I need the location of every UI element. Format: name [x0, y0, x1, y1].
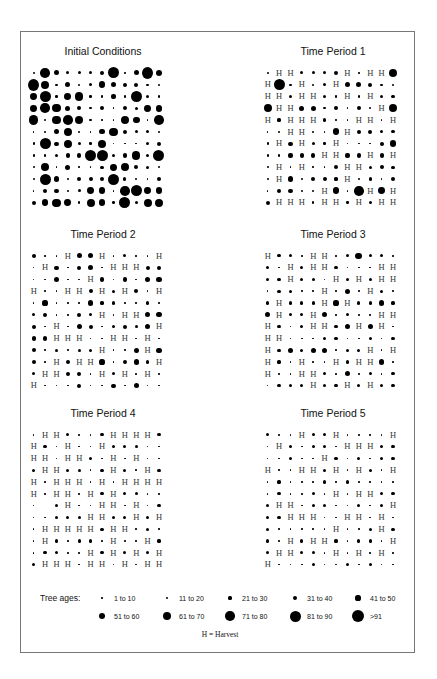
harvest-cell: H [285, 547, 296, 559]
harvest-icon: H [299, 92, 305, 101]
tree-dot-icon [156, 277, 161, 282]
tree-dot-icon [347, 190, 349, 192]
harvest-icon: H [76, 454, 82, 463]
tree-dot-icon [369, 278, 372, 281]
tree-dot-icon [266, 516, 269, 519]
tree-cell [342, 274, 353, 286]
tree-cell [353, 500, 364, 512]
tree-cell [142, 453, 153, 465]
tree-dot-icon [312, 563, 315, 566]
tree-cell [62, 380, 73, 392]
tree-cell [153, 344, 164, 356]
tree-dot-icon [290, 528, 292, 530]
tree-cell [131, 91, 142, 103]
tree-dot-icon [123, 254, 126, 257]
tree-dot-icon [347, 338, 349, 340]
tree-cell [387, 488, 398, 500]
tree-dot-icon [75, 92, 83, 100]
tree-dot-icon [147, 290, 149, 292]
tree-dot-icon [65, 82, 70, 87]
tree-cell [285, 297, 296, 309]
tree-dot-icon [301, 290, 303, 292]
harvest-cell: H [51, 429, 62, 441]
harvest-icon: H [344, 381, 350, 390]
legend-item: 71 to 80 [223, 609, 267, 623]
tree-cell [96, 161, 107, 173]
tree-cell [296, 488, 307, 500]
harvest-cell: H [365, 185, 376, 197]
tree-dot-icon [323, 83, 326, 86]
harvest-icon: H [53, 466, 59, 475]
tree-cell [262, 441, 273, 453]
harvest-icon: H [367, 442, 373, 451]
tree-dot-icon [324, 552, 326, 554]
tree-dot-icon [278, 267, 280, 269]
tree-dot-icon [347, 540, 349, 542]
harvest-cell: H [376, 547, 387, 559]
harvest-icon: H [99, 346, 105, 355]
tree-cell [131, 285, 142, 297]
tree-cell [153, 197, 164, 209]
harvest-cell: H [74, 333, 85, 345]
harvest-cell: H [342, 173, 353, 185]
tree-dot-icon [33, 279, 35, 281]
harvest-icon: H [356, 322, 362, 331]
harvest-cell: H [285, 67, 296, 79]
tree-cell [342, 523, 353, 535]
tree-cell [376, 250, 387, 262]
harvest-cell: H [296, 429, 307, 441]
tree-dot-icon [43, 336, 47, 340]
tree-cell [51, 161, 62, 173]
legend-item: 21 to 30 [223, 591, 267, 605]
harvest-icon: H [88, 275, 94, 284]
tree-cell [153, 274, 164, 286]
tree-cell [142, 185, 153, 197]
tree-cell [85, 185, 96, 197]
tree-dot-icon [135, 373, 137, 375]
harvest-cell: H [319, 197, 330, 209]
tree-cell [39, 309, 50, 321]
tree-dot-icon [289, 290, 292, 293]
tree-cell [273, 126, 284, 138]
harvest-cell: H [319, 262, 330, 274]
tree-cell [96, 185, 107, 197]
tree-cell [51, 173, 62, 185]
harvest-cell: H [308, 250, 319, 262]
tree-cell [51, 309, 62, 321]
tree-dot-icon [123, 83, 127, 87]
tree-dot-icon [33, 267, 35, 269]
tree-cell [387, 512, 398, 524]
harvest-icon: H [133, 431, 139, 440]
harvest-icon: H [65, 287, 71, 296]
tree-cell [85, 309, 96, 321]
tree-cell [131, 535, 142, 547]
tree-dot-icon [335, 255, 337, 257]
tree-dot-icon [134, 383, 139, 388]
harvest-cell: H [353, 441, 364, 453]
harvest-cell: H [296, 114, 307, 126]
tree-dot-icon [113, 314, 115, 316]
tree-dot-icon [381, 338, 383, 340]
tree-dot-icon [369, 107, 371, 109]
tree-dot-icon [113, 190, 115, 192]
harvest-cell: H [85, 274, 96, 286]
tree-dot-icon [380, 504, 383, 507]
harvest-icon: H [110, 263, 116, 272]
tree-cell [39, 79, 50, 91]
dot-size-4-icon [288, 596, 302, 600]
tree-dot-icon [67, 540, 69, 542]
tree-cell [39, 102, 50, 114]
tree-dot-icon [119, 197, 130, 208]
tree-cell [342, 559, 353, 571]
harvest-cell: H [51, 476, 62, 488]
tree-dot-icon [33, 131, 35, 133]
harvest-cell: H [142, 333, 153, 345]
tree-dot-icon [54, 129, 59, 134]
tree-cell [365, 464, 376, 476]
tree-dot-icon [135, 540, 137, 542]
harvest-icon: H [322, 322, 328, 331]
tree-dot-icon [333, 300, 338, 305]
tree-cell [285, 476, 296, 488]
tree-cell [108, 79, 119, 91]
tree-cell [62, 102, 73, 114]
